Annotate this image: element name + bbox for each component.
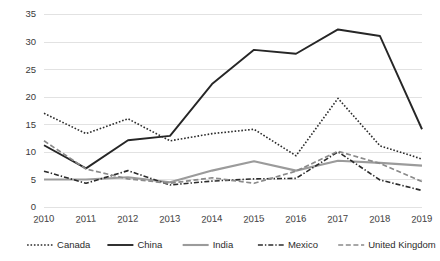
chart-canvas: 05101520253035 2010201120122013201420152… — [0, 0, 440, 261]
x-axis-tick-label: 2014 — [201, 212, 223, 224]
x-axis-tick-label: 2018 — [369, 212, 391, 224]
legend-label-mexico: Mexico — [288, 239, 318, 250]
x-axis-tick-label: 2019 — [411, 212, 433, 224]
series-line-canada — [44, 98, 422, 159]
y-axis-tick-label: 35 — [25, 8, 36, 19]
y-axis-tick-label: 5 — [31, 174, 36, 185]
series-lines-group — [44, 29, 422, 190]
y-axis-tick-label: 10 — [25, 146, 36, 157]
x-axis-tick-label: 2011 — [75, 212, 96, 224]
chart-legend: CanadaChinaIndiaMexicoUnited Kingdom — [27, 239, 436, 250]
x-axis-tick-label: 2017 — [327, 212, 349, 224]
x-axis-tick-label: 2013 — [159, 212, 181, 224]
y-axis-tick-label: 30 — [25, 36, 36, 47]
legend-label-united-kingdom: United Kingdom — [368, 239, 436, 250]
y-axis-tick-label: 15 — [25, 119, 36, 130]
y-axis-tick-label: 0 — [31, 201, 36, 212]
y-axis-tick-label: 25 — [25, 64, 36, 75]
x-axis-tick-labels: 2010201120122013201420152016201720182019 — [33, 212, 433, 224]
x-axis-tick-label: 2010 — [33, 212, 55, 224]
series-line-china — [44, 29, 422, 168]
x-axis-tick-label: 2015 — [243, 212, 265, 224]
y-axis-tick-label: 20 — [25, 91, 36, 102]
line-chart: 05101520253035 2010201120122013201420152… — [0, 0, 440, 261]
x-axis-tick-label: 2016 — [285, 212, 307, 224]
legend-label-canada: Canada — [57, 239, 91, 250]
x-axis-tick-label: 2012 — [117, 212, 139, 224]
legend-label-china: China — [137, 239, 163, 250]
y-axis-tick-labels: 05101520253035 — [25, 8, 36, 212]
legend-label-india: India — [213, 239, 234, 250]
